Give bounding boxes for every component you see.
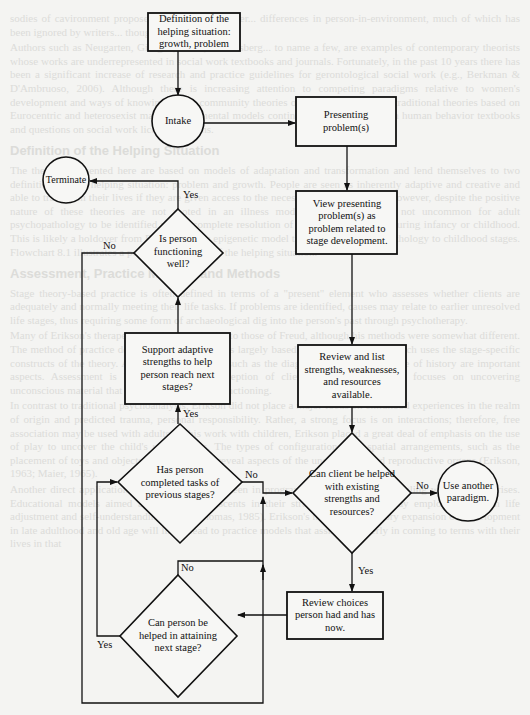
can-person-label: Can person be helped in attaining next s… xyxy=(138,611,218,661)
completed-label: Has person completed tasks of previous s… xyxy=(140,458,220,508)
edge-label-can-person-no: No xyxy=(181,562,194,573)
edge-label-can-person-yes: Yes xyxy=(97,639,112,650)
intake-label: Intake xyxy=(154,113,202,129)
arrow-can-person-yes-to-completed xyxy=(97,482,120,636)
support-label: Support adaptive strengths to help perso… xyxy=(129,335,226,402)
review-choices-label: Review choices person had and has now. xyxy=(291,594,379,637)
can-client-label: Can client be helped with existing stren… xyxy=(305,468,399,518)
another-label: Use another paradigm. xyxy=(442,473,494,511)
review-list-label: Review and list strengths, weaknesses, a… xyxy=(302,347,402,405)
edge-label-can-client-yes: Yes xyxy=(358,565,373,576)
functioning-label: Is person functioning well? xyxy=(148,232,208,272)
arrow-completed-no-to-can-client xyxy=(242,482,292,493)
edge-label-can-client-no: No xyxy=(416,480,429,491)
view-label: View presenting problem(s) as problem re… xyxy=(300,193,394,252)
flowchart xyxy=(0,0,530,715)
arrow-functioning-yes-to-terminate xyxy=(90,181,178,209)
edge-label-functioning-no: No xyxy=(103,240,116,251)
presenting-label: Presenting problem(s) xyxy=(300,99,392,144)
definition-label: Definition of the helping situation: gro… xyxy=(150,14,238,50)
terminate-label: Terminate xyxy=(43,172,89,188)
edge-label-completed-no: No xyxy=(245,469,258,480)
edge-label-functioning-yes: Yes xyxy=(183,189,198,200)
edge-label-completed-yes: Yes xyxy=(183,408,198,419)
